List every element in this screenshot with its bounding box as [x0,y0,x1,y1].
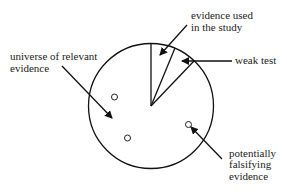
universe-label-line2: evidence [10,62,49,74]
evidence-dot-1 [112,94,118,100]
evidence-used-label-line2: in the study [191,21,243,33]
universe-label-line1: universe of relevant [10,50,97,62]
evidence-dot-2 [125,135,131,141]
evidence-universe-diagram: universe of relevant evidence evidence u… [0,0,287,192]
falsifying-arrow [191,127,222,159]
falsifying-label-line2: falsifying [229,158,272,170]
spoke-middle [151,48,175,106]
spoke-right [151,61,194,106]
weak-test-label: weak test [235,54,276,66]
universe-arrow [62,66,112,118]
falsifying-evidence-dot [186,122,192,128]
evidence-used-label-line1: evidence used [191,9,253,21]
falsifying-label-line3: evidence [229,170,268,182]
